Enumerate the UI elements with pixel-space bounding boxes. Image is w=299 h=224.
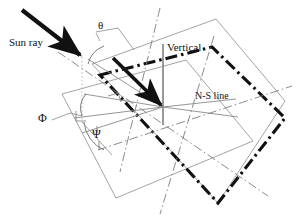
ray-center-to-west (74, 107, 163, 118)
ns-line-label: N-S line (195, 91, 229, 101)
phi-angle-arc (81, 94, 86, 116)
dashdot-axis-ne-sw (120, 8, 160, 172)
theta-angle-label: θ (98, 20, 103, 31)
dashdot-axis-long-diagonal (160, 36, 214, 214)
surface-normal-arrow (113, 58, 161, 105)
theta-tick (96, 33, 100, 41)
vertical-label: Vertical (167, 42, 201, 53)
psi-angle-label: Ψ (92, 128, 101, 140)
solar-geometry-diagram: Sun ray Vertical N-S line θ Φ Ψ (0, 0, 299, 224)
sun-ray-label: Sun ray (9, 37, 43, 48)
theta-angle-arc (88, 46, 104, 64)
phi-leader-line (52, 113, 82, 120)
ray-center-to-east (163, 107, 238, 117)
horizontal-reference-plane (62, 60, 253, 198)
phi-angle-label: Φ (38, 112, 47, 124)
ray-center-to-sun-foot (88, 59, 163, 107)
sun-ray-arrow (22, 10, 80, 55)
